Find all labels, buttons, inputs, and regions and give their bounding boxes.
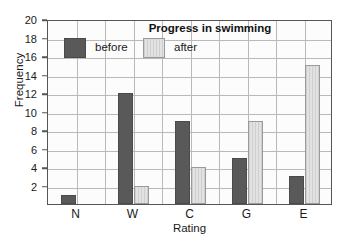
- y-tick-label: 12: [25, 89, 37, 100]
- y-tick-label: 18: [25, 33, 37, 44]
- y-tick-label: 2: [31, 181, 37, 192]
- bar-after-G: [248, 121, 263, 204]
- legend-label-after: after: [174, 41, 197, 53]
- gridline-horizontal: [48, 114, 331, 115]
- gridline-horizontal: [48, 77, 331, 78]
- chart-title: Progress in swimming: [110, 22, 310, 34]
- bar-before-N: [61, 195, 76, 204]
- legend-swatch-before: [64, 38, 86, 58]
- y-tick-label: 8: [31, 126, 37, 137]
- y-tick-label: 10: [25, 107, 37, 118]
- x-tick-label: W: [127, 207, 138, 221]
- bar-before-G: [232, 158, 247, 204]
- gridline-horizontal: [48, 58, 331, 59]
- y-tick-label: 14: [25, 70, 37, 81]
- y-tick-label: 20: [25, 15, 37, 26]
- bar-after-E: [305, 65, 320, 204]
- y-axis: 2468101214161820: [0, 0, 47, 205]
- x-tick-label: E: [299, 207, 307, 221]
- legend-label-before: before: [95, 41, 128, 53]
- x-tick-label: G: [242, 207, 251, 221]
- bar-before-E: [289, 176, 304, 204]
- bar-after-W: [134, 186, 149, 205]
- bar-after-C: [191, 167, 206, 204]
- y-tick-label: 6: [31, 144, 37, 155]
- bar-before-W: [118, 93, 133, 204]
- gridline-vertical: [219, 21, 220, 204]
- chart-figure: Frequency 2468101214161820 NWCGE Rating …: [0, 0, 360, 241]
- x-axis-title: Rating: [47, 222, 332, 234]
- y-tick-label: 4: [31, 163, 37, 174]
- gridline-horizontal: [48, 95, 331, 96]
- x-tick-label: N: [71, 207, 80, 221]
- x-tick-label: C: [185, 207, 194, 221]
- y-tick-label: 16: [25, 52, 37, 63]
- gridline-vertical: [276, 21, 277, 204]
- bar-before-C: [175, 121, 190, 204]
- legend-swatch-after: [143, 38, 165, 58]
- gridline-vertical: [134, 21, 135, 204]
